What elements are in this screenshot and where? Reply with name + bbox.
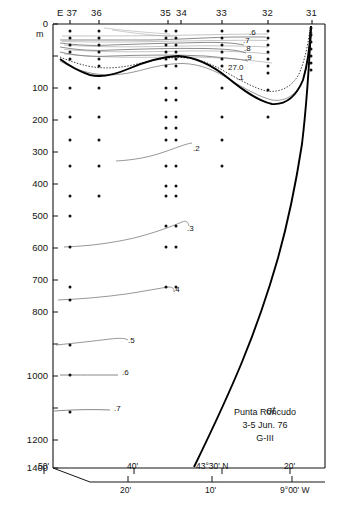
longitude-label-10: 10' [205, 486, 216, 495]
latitude-label-20: 20' [284, 462, 295, 471]
contour-label-27-6: .6 [122, 369, 129, 377]
depth-tick-0: 0 [18, 19, 48, 29]
station-label-32: 32 [262, 8, 273, 18]
contour-label-27-3: .3 [187, 225, 194, 233]
depth-tick-400: 400 [14, 179, 48, 189]
station-ticks [70, 20, 312, 24]
depth-tick-700: 700 [14, 275, 48, 285]
depth-tick-100: 100 [14, 83, 48, 93]
latitude-ticks [44, 468, 290, 474]
contour-label-26-6: .6 [249, 29, 256, 37]
contour-label-27-1: .1 [237, 74, 244, 82]
depth-ticks [53, 24, 58, 468]
contour-27-3 [64, 221, 189, 247]
depth-tick-800: 800 [14, 307, 48, 317]
depth-tick-200: 200 [14, 115, 48, 125]
sigma-t-section-figure: E 37 36 35 34 33 32 31 0 m 100 200 300 4… [0, 0, 343, 507]
longitude-label-20: 20' [120, 486, 131, 495]
contour-label-27-2: .2 [193, 145, 200, 153]
contour-label-27-0: 27.0 [228, 64, 244, 72]
contour-label-27-4: .4 [173, 286, 180, 294]
contour-27-5 [56, 338, 128, 345]
station-label-35: 35 [160, 8, 171, 18]
contour-27-7 [54, 410, 110, 411]
depth-tick-1200: 1200 [10, 435, 48, 445]
contour-27-2 [116, 143, 192, 161]
latitude-label-4330N: 43°30' N [196, 462, 228, 471]
station-label-34: 34 [176, 8, 187, 18]
depth-tick-500: 500 [14, 211, 48, 221]
contour-strand-b [62, 40, 268, 42]
title-location: Punta Roncudo [205, 408, 325, 417]
contour-label-26-9: .9 [245, 54, 252, 62]
station-label-33: 33 [216, 8, 227, 18]
depth-tick-1000: 1000 [10, 371, 48, 381]
contour-strand-a [62, 34, 268, 36]
depth-unit-label: m [36, 30, 44, 39]
station-label-37: E 37 [57, 8, 77, 18]
depth-tick-300: 300 [14, 147, 48, 157]
contour-27-4 [58, 287, 174, 300]
contour-label-27-5: .5 [128, 337, 135, 345]
longitude-label-900W: 9°00' W [280, 486, 310, 495]
latitude-label-40: 40' [127, 462, 138, 471]
title-dates: 3-5 Jun. 76 [205, 421, 325, 430]
station-label-31: 31 [306, 8, 317, 18]
contour-label-27-7: .7 [114, 405, 121, 413]
longitude-ticks [128, 476, 292, 482]
station-label-36: 36 [91, 8, 102, 18]
contour-26-8 [60, 47, 246, 53]
contour-26-6 [60, 37, 266, 40]
sampling-dots [69, 27, 313, 414]
depth-tick-600: 600 [14, 243, 48, 253]
title-cruise: G-III [205, 434, 325, 443]
contour-label-26-8: .8 [244, 45, 251, 53]
latitude-label-50: 50' [38, 462, 49, 471]
contour-26-7 [60, 42, 244, 45]
section-plot-svg [0, 0, 343, 507]
contour-27-0 [60, 30, 310, 91]
